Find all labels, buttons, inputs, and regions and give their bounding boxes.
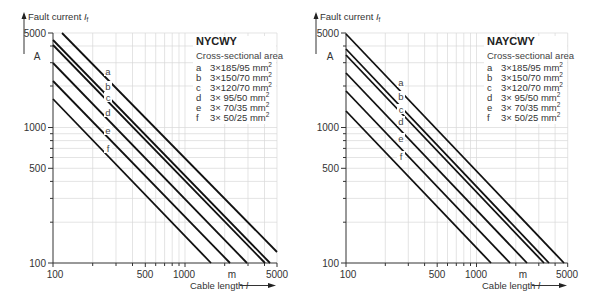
y-axis-unit: A [34,51,41,62]
curve-label-d: d [398,116,403,127]
y-tick-label: 1000 [317,122,340,133]
y-tick-label: 5000 [317,28,340,39]
x-tick-label: 5000 [266,269,289,280]
y-tick-label: 1000 [24,122,47,133]
curve-label-a: a [398,77,404,88]
y-tick-label: 500 [322,163,339,174]
curve-label-e: e [105,125,110,136]
x-tick-label: 500 [137,269,154,280]
curve-label-b: b [398,91,403,102]
x-tick-label: 500 [429,269,446,280]
x-tick-label: 100 [340,269,357,280]
y-axis-arrow-icon [314,12,319,19]
legend-key: f [196,112,199,123]
x-tick-label: 1000 [173,269,196,280]
y-tick-label: 100 [29,258,46,269]
x-tick-label: 5000 [556,269,579,280]
legend-key: f [487,112,490,123]
y-tick-label: 5000 [24,28,47,39]
curve-label-e: e [398,133,403,144]
x-tick-label: 100 [47,269,64,280]
curve-label-b: b [105,81,110,92]
chart-nycwy: Fault current If A 5000 1000 500 100 100… [22,11,289,291]
curve-label-c: c [399,104,404,115]
legend-label: 3× 50/25 mm2 [210,111,270,123]
curve-label-c: c [106,92,111,103]
curve-label-f: f [107,143,110,154]
x-axis-arrow-icon [559,283,567,288]
y-axis-title: Fault current If [28,11,89,23]
curve-label-a: a [105,66,111,77]
figure: Fault current If A 5000 1000 500 100 100… [0,0,596,306]
y-axis-arrow-icon [22,12,27,19]
legend-title: Cross-sectional area [196,50,284,61]
legend-title: Cross-sectional area [487,50,575,61]
legend-label: 3× 50/25 mm2 [501,111,561,123]
x-axis-arrow-icon [268,283,276,288]
y-axis-unit: A [327,51,334,62]
chart-naycwy: Fault current If A 5000 1000 500 100 100… [314,11,579,291]
y-axis-title: Fault current If [320,11,381,23]
curve-label-f: f [400,151,403,162]
curve-f [53,99,211,263]
x-axis-unit: m [519,269,527,280]
y-tick-label: 100 [322,258,339,269]
x-tick-label: 1000 [465,269,488,280]
x-axis-unit: m [228,269,236,280]
y-tick-label: 500 [29,163,46,174]
chart-title: NYCWY [196,35,238,47]
curve-label-d: d [105,107,110,118]
chart-title: NAYCWY [487,35,536,47]
